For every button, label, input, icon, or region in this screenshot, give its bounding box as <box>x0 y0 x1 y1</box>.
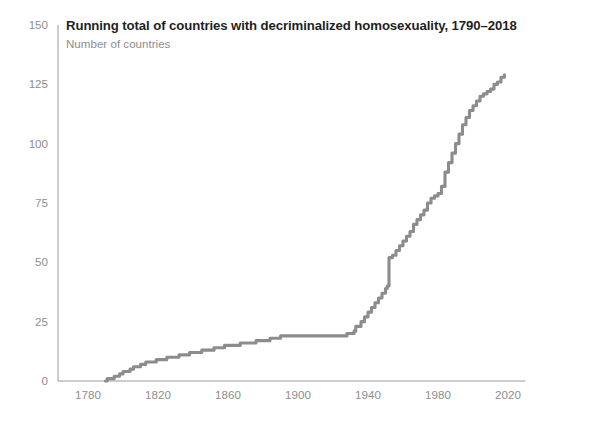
y-tick-label-125: 125 <box>29 77 48 90</box>
y-tick-label-50: 50 <box>35 255 48 268</box>
y-tick-label-100: 100 <box>29 137 48 150</box>
x-axis-tick-labels: 1780182018601900194019802020 <box>75 388 521 401</box>
x-tick-label-1780: 1780 <box>75 388 101 401</box>
chart-plot-area: 0255075100125150 17801820186019001940198… <box>0 0 592 429</box>
y-tick-label-25: 25 <box>35 315 48 328</box>
x-tick-label-1980: 1980 <box>425 388 451 401</box>
x-tick-label-1900: 1900 <box>285 388 311 401</box>
x-tick-label-2020: 2020 <box>495 388 521 401</box>
x-tick-label-1820: 1820 <box>145 388 171 401</box>
series-line-running-total <box>106 75 505 381</box>
x-tick-label-1860: 1860 <box>215 388 241 401</box>
y-tick-label-75: 75 <box>35 196 48 209</box>
y-tick-label-150: 150 <box>29 18 48 31</box>
y-axis-tick-labels: 0255075100125150 <box>29 18 48 387</box>
y-tick-label-0: 0 <box>42 374 48 387</box>
chart-container: Running total of countries with decrimin… <box>0 0 592 429</box>
x-tick-label-1940: 1940 <box>355 388 381 401</box>
